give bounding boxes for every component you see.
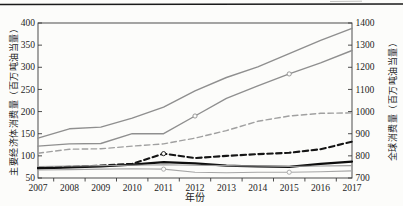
y-right-tick-label: 1200 [356, 62, 375, 72]
series-marker-black-dashed [162, 152, 166, 156]
series-marker-gray-thin-lower [287, 170, 291, 174]
y-right-tick-label: 1300 [356, 40, 375, 50]
x-tick-label: 2016 [311, 183, 330, 193]
y-left-tick-label: 200 [21, 107, 36, 117]
y-left-tick-label: 400 [21, 18, 36, 28]
chart-plot-svg: 4003503002502001501005014001300120011001… [0, 0, 403, 206]
x-tick-label: 2010 [123, 183, 142, 193]
y-left-tick-label: 100 [21, 151, 36, 161]
y-right-tick-label: 1400 [356, 18, 375, 28]
x-tick-label: 2007 [29, 183, 48, 193]
x-tick-label: 2015 [280, 183, 299, 193]
right-axis-title: 全球消费量（百万吨油当量） [386, 20, 399, 180]
scanned-chart-page: 4003503002502001501005014001300120011001… [0, 0, 403, 206]
y-right-tick-label: 900 [356, 129, 371, 139]
series-marker-gray-solid-lower [287, 72, 291, 76]
series-marker-gray-solid-lower [193, 114, 197, 118]
y-left-tick-label: 150 [21, 129, 36, 139]
series-line-gray-thin-lower [38, 169, 352, 173]
y-right-tick-label: 1100 [356, 85, 375, 95]
series-marker-gray-thin-lower [162, 167, 166, 171]
x-tick-label: 2008 [60, 183, 79, 193]
x-tick-label: 2014 [248, 183, 267, 193]
series-line-gray-dashed [38, 113, 352, 153]
y-left-tick-label: 250 [21, 85, 36, 95]
series-line-gray-solid-upper [38, 28, 352, 138]
x-tick-label: 2009 [91, 183, 110, 193]
page-top-rule [0, 4, 403, 5]
series-line-gray-solid-lower [38, 51, 352, 147]
y-left-tick-label: 300 [21, 62, 36, 72]
left-axis-title: 主要经济体消费量（百万吨油当量） [7, 20, 20, 180]
y-left-tick-label: 350 [21, 40, 36, 50]
x-axis-title: 年份 [155, 189, 235, 204]
y-right-tick-label: 1000 [356, 107, 375, 117]
y-right-tick-label: 800 [356, 151, 371, 161]
x-tick-label: 2017 [343, 183, 362, 193]
